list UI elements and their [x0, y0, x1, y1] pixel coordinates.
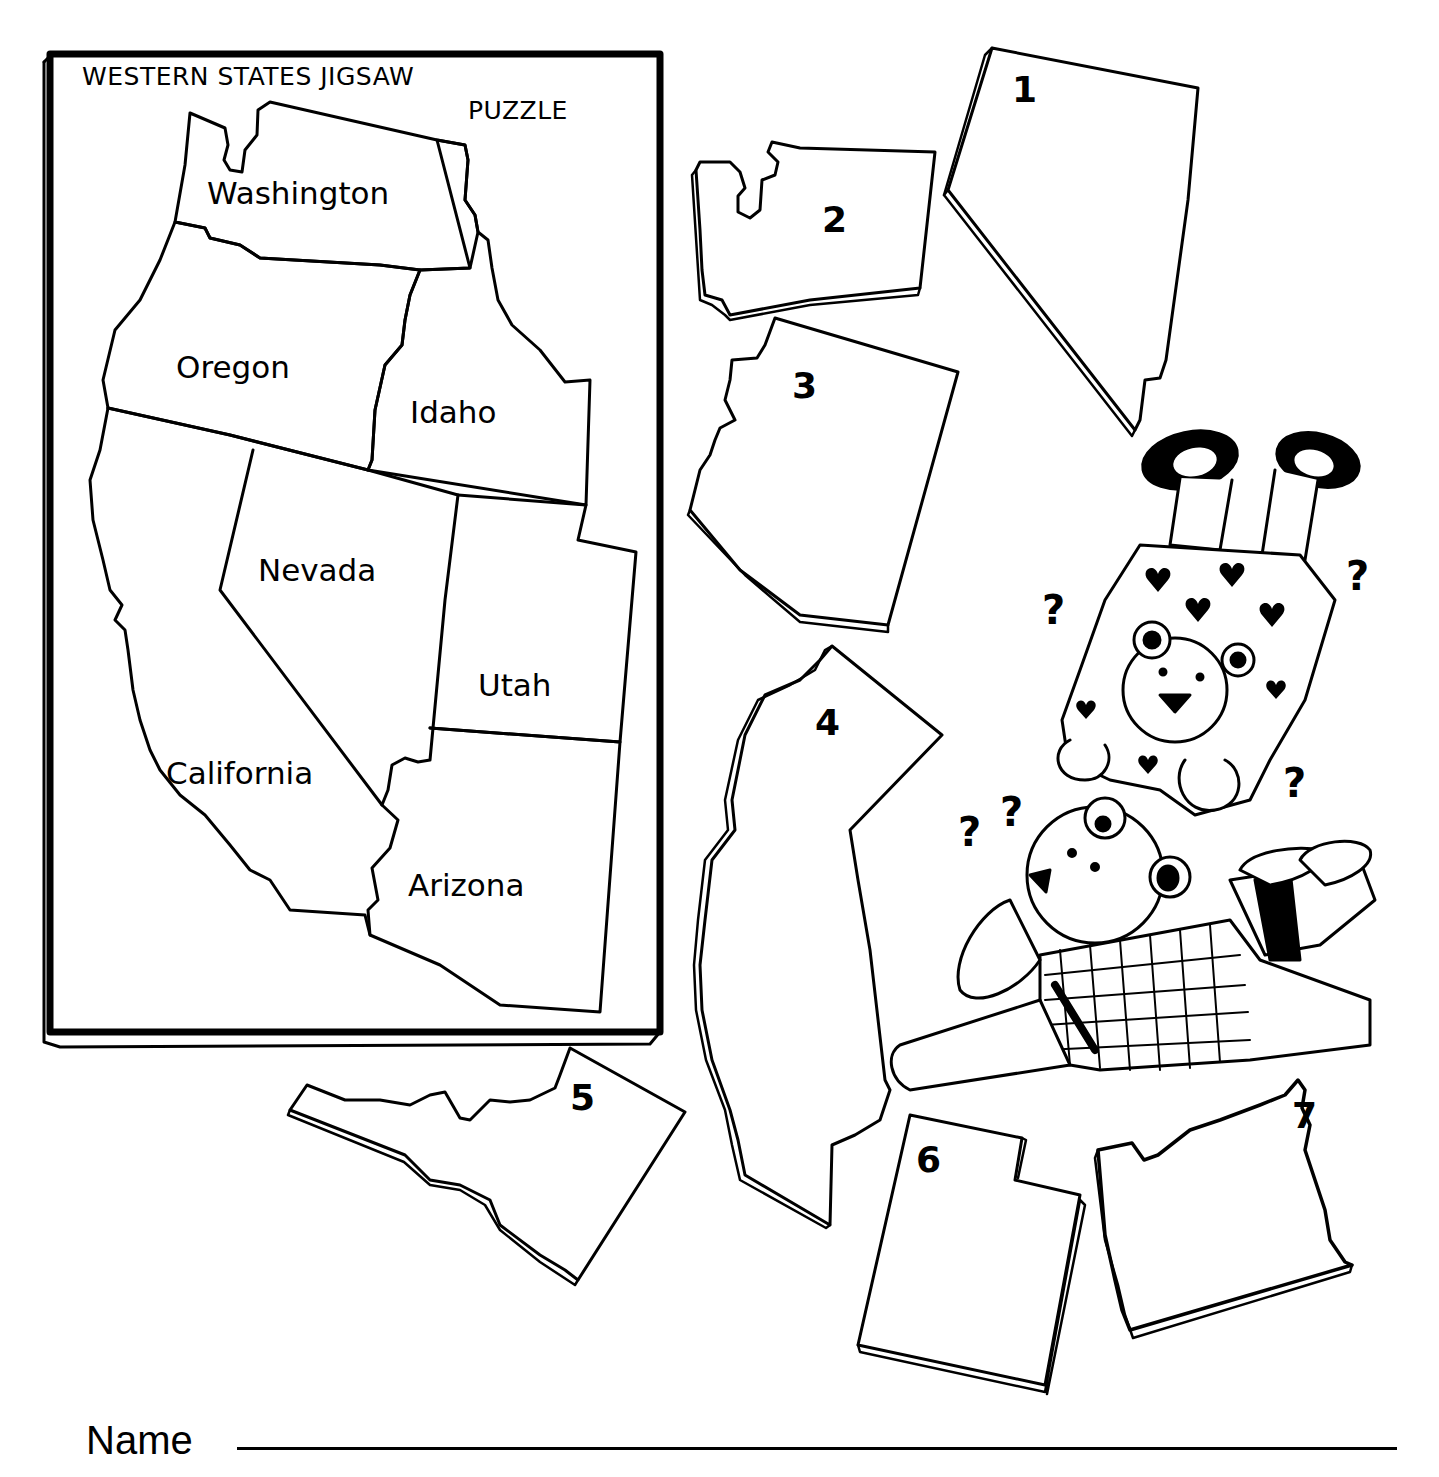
- map-label-utah: Utah: [478, 670, 552, 701]
- question-mark-icon: ?: [1346, 556, 1369, 596]
- map-label-idaho: Idaho: [410, 397, 496, 428]
- question-mark-icon: ?: [1283, 763, 1306, 803]
- worksheet-title-line2: PUZZLE: [468, 98, 568, 123]
- puzzle-piece-2[interactable]: [692, 142, 935, 320]
- piece-number-6: 6: [916, 1142, 941, 1178]
- worksheet-title-line1: WESTERN STATES JIGSAW: [82, 64, 414, 89]
- map-label-nevada: Nevada: [258, 555, 376, 586]
- puzzle-piece-1[interactable]: [944, 48, 1198, 436]
- question-mark-icon: ?: [958, 812, 981, 852]
- puzzle-piece-6[interactable]: [858, 1115, 1085, 1394]
- piece-number-4: 4: [815, 705, 840, 741]
- piece-number-2: 2: [822, 202, 847, 238]
- piece-number-1: 1: [1012, 72, 1037, 108]
- puzzle-piece-3[interactable]: [688, 318, 958, 632]
- map-label-california: California: [166, 758, 313, 789]
- piece-number-7: 7: [1292, 1098, 1317, 1134]
- map-label-washington: Washington: [207, 178, 389, 209]
- name-label: Name: [86, 1420, 193, 1460]
- name-field[interactable]: [237, 1447, 1397, 1450]
- piece-number-5: 5: [570, 1080, 595, 1116]
- puzzle-piece-5[interactable]: [288, 1048, 685, 1285]
- map-label-oregon: Oregon: [176, 352, 290, 383]
- question-mark-icon: ?: [1000, 792, 1023, 832]
- map-label-arizona: Arizona: [408, 870, 524, 901]
- bear-illustration-upside-down: [1058, 423, 1365, 815]
- worksheet-artwork: [0, 0, 1439, 1477]
- question-mark-icon: ?: [1042, 590, 1065, 630]
- piece-number-3: 3: [792, 368, 817, 404]
